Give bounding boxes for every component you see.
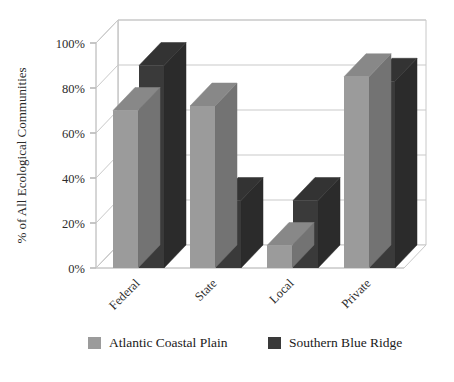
bar-side-face — [395, 58, 417, 268]
x-tick-label-state: State — [192, 276, 220, 304]
bar-side-face — [369, 54, 391, 268]
bar-federal-1[interactable] — [113, 88, 160, 269]
bar-side-face — [164, 43, 186, 269]
bar-private-1[interactable] — [344, 54, 391, 268]
y-tick-label: 60% — [62, 127, 85, 141]
legend-item-2[interactable]: Southern Blue Ridge — [268, 335, 402, 350]
y-tick-label: 0% — [68, 262, 85, 276]
bar-side-face — [215, 83, 237, 268]
x-tick-label-local: Local — [267, 276, 297, 306]
y-tick-label: 100% — [56, 37, 85, 51]
legend-item-1[interactable]: Atlantic Coastal Plain — [88, 335, 228, 350]
chart-legend: Atlantic Coastal PlainSouthern Blue Ridg… — [88, 335, 402, 350]
y-tick-label: 80% — [62, 82, 85, 96]
y-axis-title: % of All Ecological Communities — [14, 67, 29, 243]
bar-state-1[interactable] — [190, 83, 237, 268]
bar-side-face — [138, 88, 160, 269]
legend-label: Southern Blue Ridge — [289, 335, 402, 350]
legend-swatch — [88, 337, 101, 349]
y-axis-title-group: % of All Ecological Communities — [14, 67, 29, 243]
legend-label: Atlantic Coastal Plain — [109, 335, 228, 350]
bar-front-face — [190, 106, 215, 268]
chart-container: 0%20%40%60%80%100%FederalStateLocalPriva… — [0, 0, 454, 382]
bar-front-face — [267, 246, 292, 269]
y-tick-label: 20% — [62, 217, 85, 231]
bar-front-face — [344, 77, 369, 268]
bar-chart: 0%20%40%60%80%100%FederalStateLocalPriva… — [0, 0, 454, 382]
y-tick-label: 40% — [62, 172, 85, 186]
legend-swatch — [268, 337, 281, 349]
x-tick-label-federal: Federal — [106, 276, 143, 313]
bar-front-face — [113, 111, 138, 269]
bar-group-private — [344, 54, 417, 268]
x-tick-label-private: Private — [339, 276, 374, 311]
x-axis-labels: FederalStateLocalPrivate — [106, 276, 374, 313]
